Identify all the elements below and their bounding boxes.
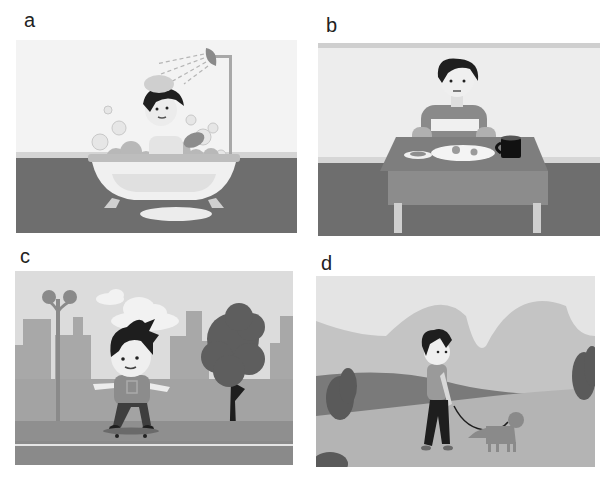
panel-d-dog-walk-scene bbox=[316, 276, 595, 467]
panel-b-breakfast-scene bbox=[318, 43, 600, 236]
panel-label-b: b bbox=[326, 15, 337, 35]
bath-illustration bbox=[16, 40, 297, 233]
road-line bbox=[15, 444, 293, 446]
bath-mat-icon bbox=[140, 207, 212, 221]
bathtub-icon bbox=[88, 154, 240, 208]
breakfast-illustration bbox=[318, 43, 600, 236]
panel-label-a: a bbox=[24, 10, 35, 30]
panel-a-bath-scene bbox=[16, 40, 297, 233]
panel-label-c: c bbox=[20, 246, 30, 266]
panel-c-skateboard-scene bbox=[15, 271, 293, 465]
panel-label-d: d bbox=[321, 253, 332, 273]
dog-walk-illustration bbox=[316, 276, 595, 467]
skateboard-illustration bbox=[15, 271, 293, 465]
plate-icon bbox=[431, 145, 495, 161]
